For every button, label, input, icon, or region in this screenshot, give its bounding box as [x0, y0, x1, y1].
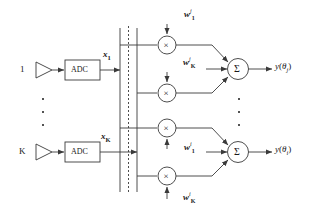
weight-superscript-j-1: j: [190, 8, 192, 14]
input-channel-ellipsis-dot-3: [42, 124, 44, 126]
weight-label-j-K: wjK: [183, 56, 195, 69]
signal-label-xK: xK: [101, 132, 111, 143]
antenna-amplifier-K: [36, 144, 52, 160]
input-channel-ellipsis-dot-2: [42, 111, 44, 113]
diagram-canvas: [0, 0, 311, 216]
weight-label-j-1: wj1: [184, 8, 195, 21]
mul-to-sum-i-K: [176, 160, 228, 176]
mul-to-sum-j-K: [176, 77, 228, 93]
port-label-1: 1: [20, 65, 25, 74]
weight-superscript-j-K: j: [189, 56, 191, 62]
beam-output-ellipsis-dot-3: [238, 124, 240, 126]
weight-subscript-j-K: K: [191, 63, 196, 69]
weight-subscript-i-1: 1: [192, 148, 195, 154]
output-label-j: y(θj): [275, 62, 291, 73]
multiplier-symbol-j-1: ×: [164, 41, 169, 50]
weight-superscript-i-K: i: [189, 191, 191, 197]
input-channel-ellipsis-dot-1: [42, 98, 44, 100]
multiplier-symbol-i-1: ×: [164, 124, 169, 133]
beamforming-diagram: 1 ADC x1 K ADC xK wj1 wjK wi1 wiK × × × …: [0, 0, 311, 216]
signal-label-x1: x1: [103, 50, 111, 61]
weight-superscript-i-1: i: [190, 141, 192, 147]
weight-subscript-j-1: 1: [192, 15, 195, 21]
adc-label-1: ADC: [71, 66, 88, 74]
signal-subscript-K: K: [106, 136, 111, 143]
summation-symbol-j: Σ: [234, 64, 240, 74]
beam-output-ellipsis-dot-2: [238, 111, 240, 113]
output-label-i: y(θi): [275, 145, 291, 156]
port-label-K: K: [19, 147, 26, 156]
output-paren-close-i: ): [288, 144, 291, 154]
summation-symbol-i: Σ: [234, 147, 240, 157]
output-paren-close-j: ): [288, 61, 291, 71]
antenna-amplifier-1: [36, 62, 52, 78]
weight-subscript-i-K: K: [191, 198, 196, 204]
data-bus: [120, 26, 137, 194]
weight-label-i-1: wi1: [184, 141, 195, 154]
beam-j-taps: [120, 45, 157, 93]
adc-label-K: ADC: [71, 148, 88, 156]
signal-subscript-1: 1: [108, 54, 111, 61]
beam-output-ellipsis-dot-1: [238, 98, 240, 100]
multiplier-symbol-i-K: ×: [164, 172, 169, 181]
weight-label-i-K: wiK: [183, 191, 195, 204]
multiplier-symbol-j-K: ×: [164, 89, 169, 98]
